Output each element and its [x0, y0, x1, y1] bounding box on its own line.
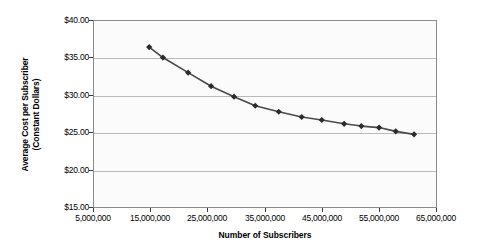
chart-container: Average Cost per Subscriber (Constant Do…: [0, 0, 486, 251]
data-point: [376, 124, 382, 130]
data-point: [231, 94, 237, 100]
data-point: [319, 117, 325, 123]
series-markers: [146, 44, 417, 137]
data-point: [299, 114, 305, 120]
series-layer: [0, 0, 486, 251]
data-point: [341, 121, 347, 127]
series-line: [149, 47, 414, 134]
data-point: [358, 123, 364, 129]
data-point: [276, 109, 282, 115]
data-point: [411, 131, 417, 137]
data-point: [393, 128, 399, 134]
data-point: [252, 103, 258, 109]
